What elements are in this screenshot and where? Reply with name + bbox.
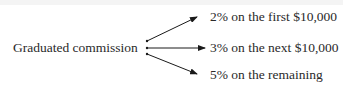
branch-label-3: 5% on the remaining bbox=[210, 67, 323, 83]
arrow-1 bbox=[147, 17, 197, 41]
branch-label-1: 2% on the first $10,000 bbox=[210, 9, 337, 25]
arrow-3 bbox=[147, 54, 197, 74]
branch-label-2: 3% on the next $10,000 bbox=[210, 40, 339, 56]
